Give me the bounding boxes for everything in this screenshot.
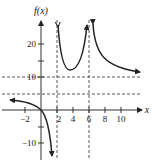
x-tick-label: 10: [117, 114, 127, 124]
x-tick-label: −2: [20, 114, 30, 124]
curve-branch-middle: [58, 25, 87, 70]
curve-branch-left-down: [41, 110, 52, 156]
y-tick-label: 10: [27, 72, 37, 82]
x-axis-label: x: [144, 104, 150, 115]
x-tick-label: 4: [71, 114, 76, 124]
curve-branch-right: [93, 24, 140, 72]
y-tick-label: 20: [27, 39, 37, 49]
y-tick-label: −10: [22, 138, 37, 148]
x-tick-label: 6: [87, 114, 92, 124]
y-axis-label: f(x): [34, 5, 49, 17]
x-tick-label: 8: [103, 114, 108, 124]
x-tick-label: 2: [57, 114, 62, 124]
function-graph: −2 2 4 6 8 10 20 10 −10 f(x) x: [0, 0, 152, 162]
